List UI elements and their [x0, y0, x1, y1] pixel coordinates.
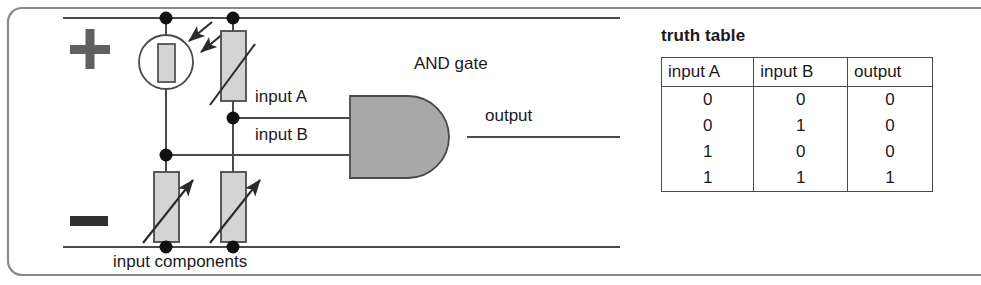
figure-canvas: input A input B AND gate output input co… — [0, 0, 981, 285]
cell-input-a: 1 — [662, 165, 754, 192]
input-b-label: input B — [255, 125, 308, 145]
table-row: 1 1 1 — [662, 165, 933, 192]
minus-sign-icon — [70, 216, 108, 226]
plus-sign-icon — [70, 29, 110, 69]
cell-input-a: 1 — [662, 139, 754, 165]
table-row: 0 1 0 — [662, 113, 933, 139]
truth-table-title: truth table — [661, 26, 745, 46]
variable-resistor-top-icon — [210, 31, 255, 105]
table-row: 0 0 0 — [662, 87, 933, 114]
cell-input-b: 1 — [754, 165, 848, 192]
variable-resistor-bottom-right-icon — [210, 172, 260, 243]
truth-table-wrapper: input A input B output 0 0 0 0 1 0 1 — [661, 57, 933, 192]
cell-output: 1 — [848, 165, 933, 192]
table-header-row: input A input B output — [662, 58, 933, 87]
cell-input-b: 1 — [754, 113, 848, 139]
and-gate-label: AND gate — [414, 54, 488, 74]
table-header-output: output — [848, 58, 933, 87]
input-a-label: input A — [255, 87, 307, 107]
truth-table: input A input B output 0 0 0 0 1 0 1 — [661, 57, 933, 192]
variable-resistor-bottom-left-icon — [143, 172, 193, 243]
light-dependent-resistor-icon — [139, 22, 224, 89]
cell-input-a: 0 — [662, 87, 754, 114]
table-header-input-a: input A — [662, 58, 754, 87]
and-gate-icon — [350, 96, 449, 178]
output-label: output — [485, 106, 532, 126]
cell-input-b: 0 — [754, 139, 848, 165]
input-components-label: input components — [113, 252, 247, 272]
cell-output: 0 — [848, 113, 933, 139]
table-row: 1 0 0 — [662, 139, 933, 165]
cell-output: 0 — [848, 139, 933, 165]
cell-input-b: 0 — [754, 87, 848, 114]
cell-output: 0 — [848, 87, 933, 114]
cell-input-a: 0 — [662, 113, 754, 139]
table-header-input-b: input B — [754, 58, 848, 87]
